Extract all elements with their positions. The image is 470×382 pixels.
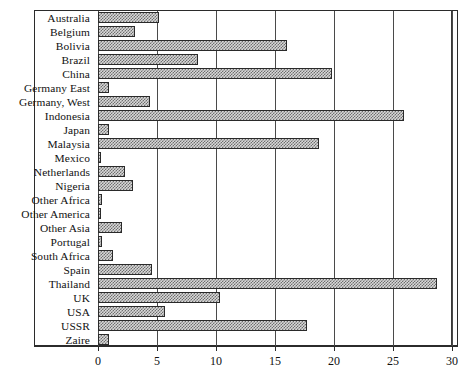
category-label: Germany, West: [19, 96, 90, 108]
bar: [98, 334, 109, 345]
bar: [98, 12, 159, 23]
gridline-15: [275, 11, 276, 346]
bar: [98, 292, 220, 303]
x-tick: [452, 346, 453, 351]
x-tick: [216, 346, 217, 351]
x-tick: [393, 346, 394, 351]
category-label: Portugal: [51, 236, 90, 248]
gridline-30: [452, 11, 453, 346]
bar: [98, 264, 152, 275]
category-label: Indonesia: [45, 110, 90, 122]
category-label: Japan: [64, 124, 90, 136]
bar: [98, 40, 287, 51]
category-label: South Africa: [31, 250, 90, 262]
bar-chart: AustraliaBelgiumBoliviaBrazilChinaGerman…: [0, 0, 470, 382]
x-tick: [334, 346, 335, 351]
bar: [98, 152, 101, 163]
bar: [98, 236, 102, 247]
bar: [98, 306, 165, 317]
category-label: Australia: [47, 12, 90, 24]
bar: [98, 194, 102, 205]
bar: [98, 68, 332, 79]
bar: [98, 26, 135, 37]
category-axis-labels: AustraliaBelgiumBoliviaBrazilChinaGerman…: [0, 10, 94, 346]
category-label: Brazil: [62, 54, 90, 66]
category-label: UK: [73, 292, 90, 304]
category-label: Other Africa: [32, 194, 90, 206]
x-tick-label: 20: [328, 354, 340, 369]
category-label: USSR: [61, 320, 90, 332]
x-tick-label: 30: [446, 354, 458, 369]
category-label: Zaire: [65, 334, 90, 346]
category-label: Mexico: [55, 152, 90, 164]
category-label: Malaysia: [47, 138, 90, 150]
category-label: Thailand: [49, 278, 90, 290]
x-tick: [98, 346, 99, 351]
category-label: Germany East: [24, 82, 90, 94]
bar: [98, 124, 109, 135]
bar: [98, 110, 404, 121]
gridline-25: [393, 11, 394, 346]
category-label: Belgium: [50, 26, 90, 38]
category-label: Other Asia: [40, 222, 90, 234]
bar: [98, 166, 125, 177]
category-label: USA: [67, 306, 90, 318]
x-tick-label: 25: [387, 354, 399, 369]
bar: [98, 278, 437, 289]
bar: [98, 222, 122, 233]
bar: [98, 138, 319, 149]
x-tick-label: 5: [154, 354, 160, 369]
category-label: Spain: [64, 264, 90, 276]
bar: [98, 180, 133, 191]
bar: [98, 54, 198, 65]
x-tick: [275, 346, 276, 351]
bar: [98, 96, 150, 107]
bar: [98, 208, 101, 219]
gridline-20: [334, 11, 335, 346]
x-tick: [157, 346, 158, 351]
category-label: Bolivia: [56, 40, 90, 52]
category-label: Netherlands: [34, 166, 90, 178]
bar: [98, 320, 307, 331]
category-label: China: [62, 68, 90, 80]
x-tick-label: 15: [269, 354, 281, 369]
x-tick-label: 10: [210, 354, 222, 369]
x-tick-label: 0: [95, 354, 101, 369]
category-label: Other America: [21, 208, 90, 220]
category-label: Nigeria: [55, 180, 90, 192]
bar: [98, 250, 113, 261]
bar: [98, 82, 109, 93]
